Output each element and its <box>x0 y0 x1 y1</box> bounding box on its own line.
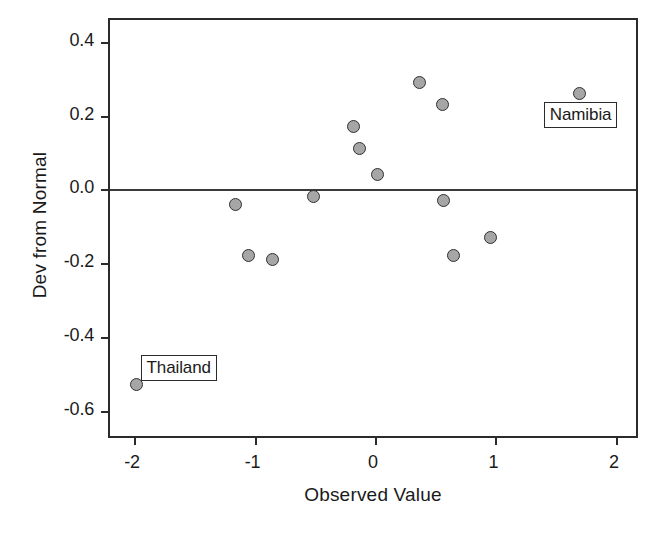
data-point[interactable] <box>353 142 366 155</box>
y-axis-tick <box>101 189 110 191</box>
point-label-thailand: Thailand <box>141 355 217 381</box>
y-axis-title: Dev from Normal <box>29 95 51 355</box>
x-axis-tick <box>495 436 497 445</box>
data-point[interactable] <box>573 87 586 100</box>
y-axis-tick <box>101 116 110 118</box>
point-label-namibia: Namibia <box>544 102 618 128</box>
y-axis-tick <box>101 337 110 339</box>
x-axis-tick-label: -2 <box>124 452 140 473</box>
data-point[interactable] <box>447 249 460 262</box>
y-axis-tick <box>101 411 110 413</box>
x-axis-tick <box>375 436 377 445</box>
y-axis-tick-label: 0.4 <box>0 30 94 51</box>
y-axis-tick <box>101 42 110 44</box>
x-axis-tick-label: 1 <box>489 452 499 473</box>
data-point[interactable] <box>371 168 384 181</box>
x-axis-tick <box>616 436 618 445</box>
scatter-chart-figure: NamibiaThailand 0.40.20.0-0.2-0.4-0.6 -2… <box>0 0 667 534</box>
zero-reference-line <box>110 189 636 191</box>
data-point[interactable] <box>307 190 320 203</box>
data-point[interactable] <box>229 198 242 211</box>
data-point[interactable] <box>437 194 450 207</box>
x-axis-title: Observed Value <box>108 484 638 506</box>
data-point[interactable] <box>413 76 426 89</box>
x-axis-tick-label: 2 <box>609 452 619 473</box>
x-axis-tick-label: -1 <box>245 452 261 473</box>
x-axis-tick-label: 0 <box>368 452 378 473</box>
x-axis-tick <box>255 436 257 445</box>
x-axis-tick <box>134 436 136 445</box>
plot-area: NamibiaThailand <box>108 18 638 438</box>
data-point[interactable] <box>484 231 497 244</box>
data-point[interactable] <box>266 253 279 266</box>
data-point[interactable] <box>242 249 255 262</box>
y-axis-tick-label: -0.6 <box>0 398 94 419</box>
data-point[interactable] <box>436 98 449 111</box>
data-point[interactable] <box>347 120 360 133</box>
y-axis-tick <box>101 263 110 265</box>
